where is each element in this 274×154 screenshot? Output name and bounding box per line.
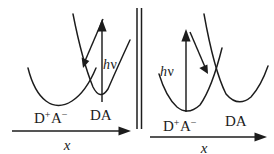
photon-energy-h-left: h <box>103 57 110 72</box>
panel-right: hν D+A− DA x <box>150 14 268 154</box>
x-axis-left <box>12 127 131 136</box>
curve-label-da-right: DA <box>225 113 247 129</box>
curve-label-da-left: DA <box>90 107 112 123</box>
photon-energy-nu-right: ν <box>168 64 174 79</box>
curve-label-dplus-aminus-right: D+A− <box>163 117 197 134</box>
relaxation-arrow-right <box>190 32 208 74</box>
photon-energy-label-right: hν <box>160 64 174 79</box>
panel-left: hν D+A− DA x <box>12 14 131 153</box>
panel-divider <box>137 8 142 129</box>
curve-label-dplus-aminus-left: D+A− <box>34 109 68 126</box>
curve-da-right <box>204 14 268 102</box>
photon-energy-nu-left: ν <box>111 57 117 72</box>
x-axis-label-right: x <box>200 140 208 154</box>
photon-energy-label-left: hν <box>103 57 117 72</box>
potential-energy-diagram: hν D+A− DA x <box>0 0 274 154</box>
curve-dplus-aminus-left <box>28 68 96 106</box>
x-axis-label-left: x <box>63 137 71 153</box>
photon-energy-h-right: h <box>160 64 167 79</box>
photon-absorption-arrow-right <box>181 29 190 112</box>
